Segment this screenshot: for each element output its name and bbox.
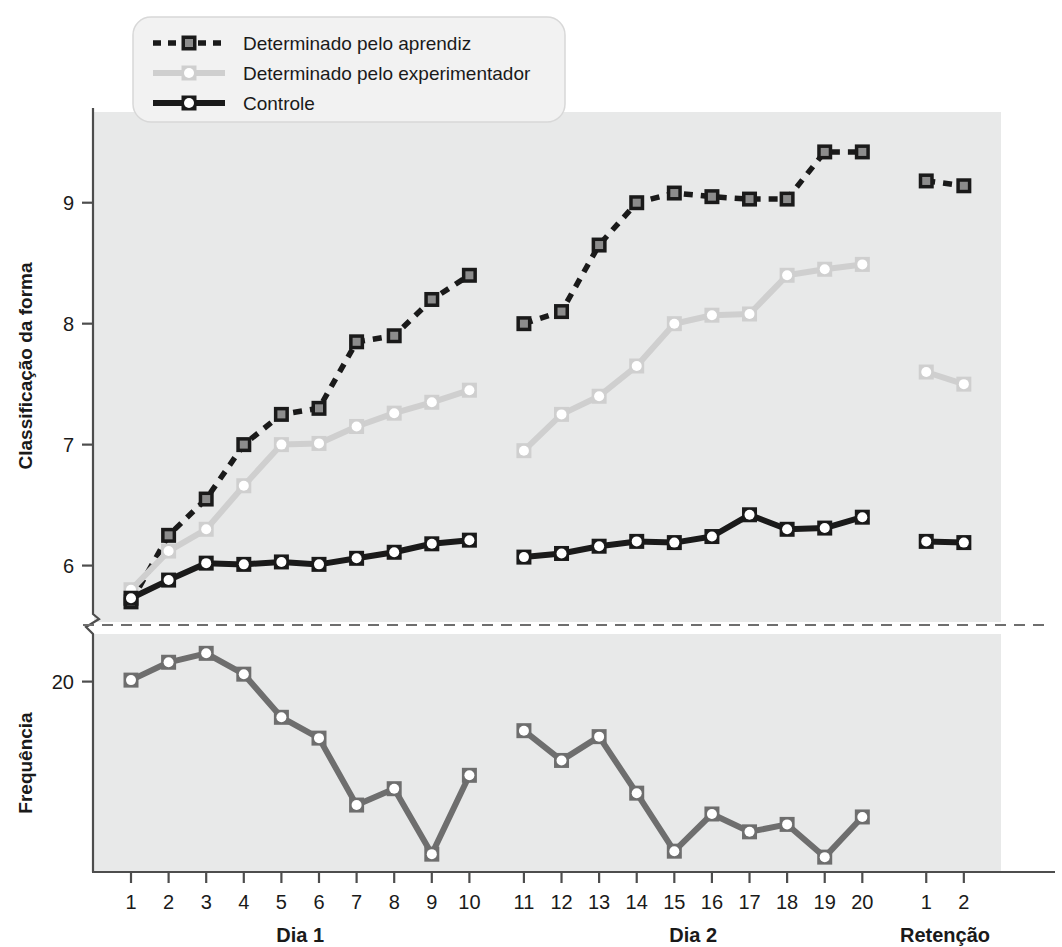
data-point-marker [742,507,757,522]
data-point-marker [236,667,251,682]
data-point-marker [629,786,644,801]
marker-inner [464,385,474,395]
data-point-marker [349,551,364,566]
marker-inner [277,410,285,418]
marker-inner [389,408,399,418]
data-point-marker [274,407,289,422]
data-point-marker [629,195,644,210]
marker-inner [633,199,641,207]
marker-inner [201,524,211,534]
legend-label: Controle [243,93,315,114]
marker-inner [959,379,969,389]
marker-inner [669,846,679,856]
marker-inner [201,558,211,568]
y-tick-label: 7 [63,434,74,456]
marker-inner [126,675,136,685]
marker-inner [428,295,436,303]
x-tick-label: 8 [389,891,400,913]
data-point-marker [592,539,607,554]
data-point-marker [124,673,139,688]
data-point-marker [424,536,439,551]
marker-inner [821,148,829,156]
marker-inner [707,532,717,542]
marker-inner [164,657,174,667]
x-tick-label: 18 [776,891,798,913]
marker-inner [558,308,566,316]
data-point-marker [516,443,531,458]
marker-inner [184,68,194,78]
data-point-marker [780,192,795,207]
marker-inner [782,524,792,534]
data-point-marker [817,521,832,536]
data-point-marker [554,753,569,768]
marker-inner [202,495,210,503]
marker-inner [707,809,717,819]
x-tick-label: 19 [814,891,836,913]
marker-inner [632,788,642,798]
marker-inner [389,784,399,794]
data-point-marker [704,529,719,544]
data-point-marker [629,359,644,374]
marker-inner [352,421,362,431]
x-tick-label: 4 [238,891,249,913]
x-tick-label: 10 [458,891,480,913]
data-point-marker [199,492,214,507]
marker-inner [519,726,529,736]
data-point-marker [424,847,439,862]
data-point-marker [161,544,176,559]
x-tick-label: 16 [701,891,723,913]
marker-inner [820,264,830,274]
marker-inner [239,559,249,569]
marker-inner [427,849,437,859]
data-point-marker [742,306,757,321]
marker-inner [921,536,931,546]
x-group-label: Dia 2 [669,924,717,946]
data-point-marker [349,798,364,813]
data-point-marker [817,262,832,277]
legend: Determinado pelo aprendizDeterminado pel… [133,17,565,122]
y-tick-label: 8 [63,313,74,335]
data-point-marker [236,437,251,452]
data-point-marker [667,316,682,331]
data-point-marker [274,437,289,452]
marker-inner [820,852,830,862]
marker-inner [185,39,193,47]
marker-inner [353,338,361,346]
marker-inner [557,548,567,558]
data-point-marker [462,268,477,283]
marker-inner [352,800,362,810]
data-point-marker [312,557,327,572]
data-point-marker [855,809,870,824]
marker-inner [857,812,867,822]
marker-inner [707,310,717,320]
data-point-marker [199,522,214,537]
marker-inner [276,712,286,722]
data-point-marker [592,238,607,253]
data-point-marker [387,328,402,343]
x-tick-label: 17 [738,891,760,913]
marker-inner [276,557,286,567]
data-point-marker [274,554,289,569]
marker-inner [465,271,473,279]
x-tick-label: 1 [921,891,932,913]
x-tick-label: 11 [514,891,535,913]
x-tick-label: 6 [313,891,324,913]
marker-inner [782,270,792,280]
marker-inner [315,404,323,412]
data-point-marker [592,729,607,744]
data-point-marker [742,824,757,839]
x-tick-label: 12 [550,891,572,913]
y-tick-label: 9 [63,192,74,214]
y-tick-label: 20 [52,671,74,693]
data-point-marker [124,591,139,606]
marker-inner [782,819,792,829]
data-point-marker [462,383,477,398]
marker-inner [389,547,399,557]
x-tick-label: 20 [851,891,873,913]
data-point-marker [161,573,176,588]
marker-inner [959,538,969,548]
marker-inner [239,481,249,491]
plot-backgrounds [94,112,1001,872]
marker-inner [165,531,173,539]
marker-inner [184,98,194,108]
